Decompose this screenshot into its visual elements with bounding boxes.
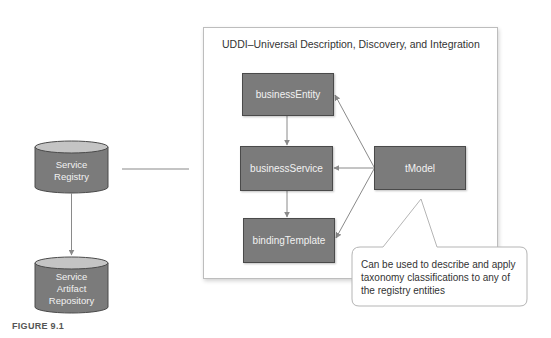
binding-template-node: bindingTemplate [243,218,335,263]
service-registry-line2: Registry [35,171,108,183]
tmodel-to-entity-arrow [335,95,374,167]
artifact-repository-line2: Artifact [35,283,108,295]
diagram-stage: UDDI–Universal Description, Discovery, a… [0,0,551,338]
artifact-repository-line3: Repository [35,295,108,307]
artifact-repository-label: Service Artifact Repository [35,271,108,307]
artifact-repository-line1: Service [35,271,108,283]
business-service-node: businessService [240,146,333,191]
tmodel-node: tModel [374,146,466,190]
service-registry-line1: Service [35,159,108,171]
figure-label: FIGURE 9.1 [12,321,64,331]
callout-text: Can be used to describe and apply taxono… [361,258,526,297]
service-registry-label: Service Registry [35,159,108,183]
tmodel-to-binding-arrow [336,169,374,238]
business-entity-node: businessEntity [242,73,334,116]
